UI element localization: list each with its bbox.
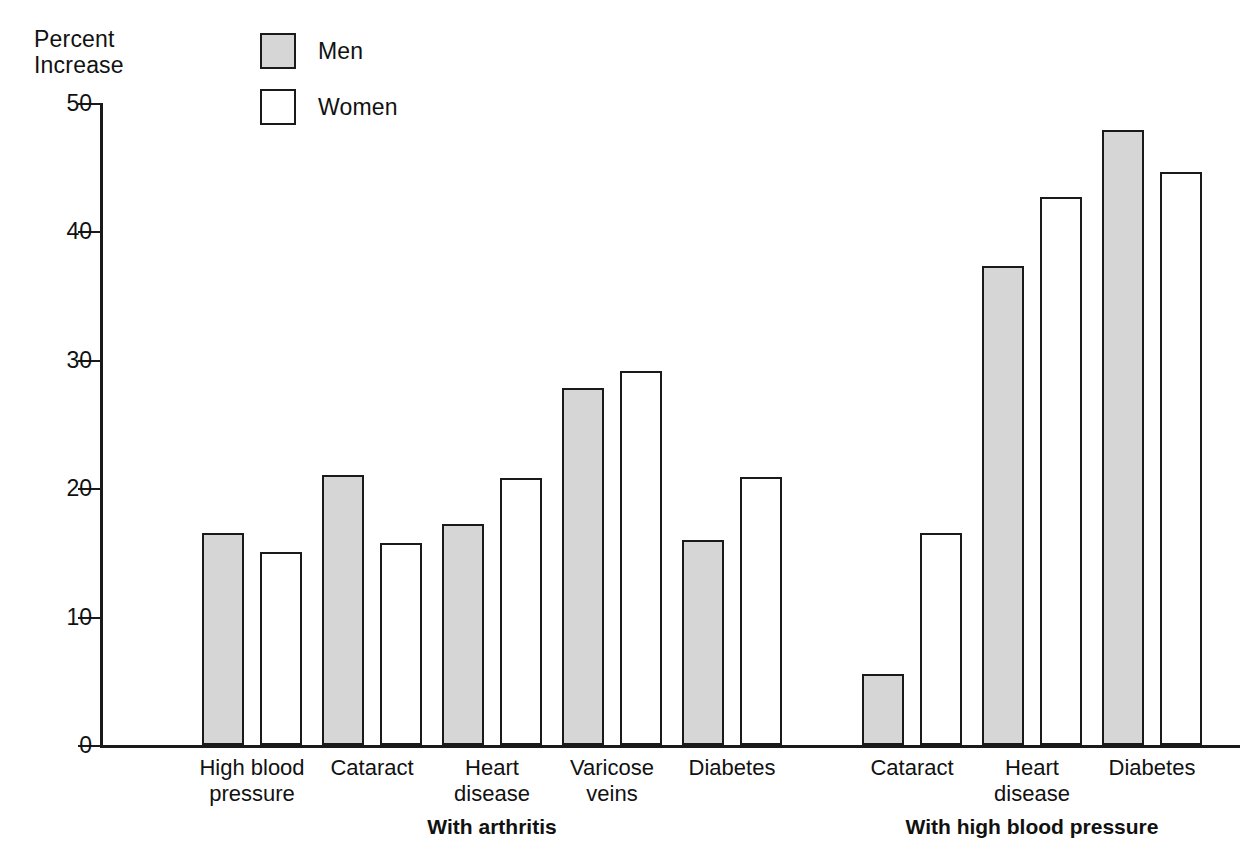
bar-women-5: [920, 533, 962, 745]
category-label-7: Diabetes: [1062, 755, 1242, 781]
y-axis-line: [100, 103, 103, 745]
bar-women-2: [500, 478, 542, 745]
bar-men-0: [202, 533, 244, 745]
bar-men-6: [982, 266, 1024, 745]
legend-swatch-men-icon: [260, 33, 296, 69]
bar-men-1: [322, 475, 364, 745]
bar-men-7: [1102, 130, 1144, 745]
bar-men-2: [442, 524, 484, 745]
bar-women-4: [740, 477, 782, 745]
bar-women-1: [380, 543, 422, 745]
bar-women-3: [620, 371, 662, 745]
legend-item-men: Men: [260, 30, 398, 72]
y-tick-label: 20: [66, 475, 92, 502]
section-label-1: With high blood pressure: [832, 815, 1232, 839]
y-axis-title: Percent Increase: [34, 26, 124, 78]
bar-women-0: [260, 552, 302, 745]
x-axis-line: [100, 745, 1240, 748]
bar-men-4: [682, 540, 724, 745]
section-label-0: With arthritis: [292, 815, 692, 839]
y-tick-label: 10: [66, 603, 92, 630]
bar-men-5: [862, 674, 904, 745]
y-tick-label: 40: [66, 218, 92, 245]
y-tick-label: 50: [66, 90, 92, 117]
bar-chart-figure: Percent Increase Men Women 01020304050 H…: [0, 0, 1246, 856]
category-label-4: Diabetes: [642, 755, 822, 781]
bar-women-7: [1160, 172, 1202, 745]
plot-area: 01020304050 High blood pressureCataractH…: [100, 103, 1240, 745]
bar-men-3: [562, 388, 604, 745]
bar-women-6: [1040, 197, 1082, 745]
y-tick-label: 0: [79, 732, 92, 759]
y-tick-label: 30: [66, 346, 92, 373]
legend-label-men: Men: [318, 38, 363, 65]
